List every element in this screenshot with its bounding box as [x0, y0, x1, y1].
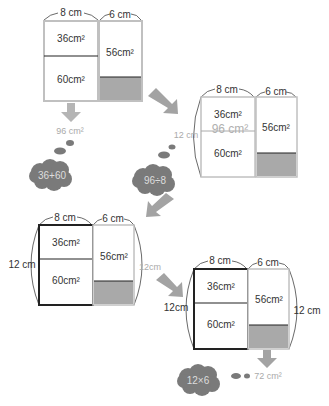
svg-text:12 cm: 12 cm [8, 259, 35, 270]
svg-text:6 cm: 6 cm [102, 213, 124, 224]
diagram-4: 8 cm 6 cm 12cm 12 cm 36cm² 60cm² 56cm² 1… [164, 255, 321, 396]
area-bottom-left: 60cm² [57, 74, 85, 85]
area-top-left: 36cm² [57, 33, 85, 44]
diagram-1: 8 cm 6 cm 36cm² 60cm² 56cm² 96 cm² 36+60 [29, 7, 142, 191]
svg-text:12cm: 12cm [164, 302, 188, 313]
svg-text:56cm²: 56cm² [255, 294, 283, 305]
svg-text:60cm²: 60cm² [52, 275, 80, 286]
svg-text:56cm²: 56cm² [262, 122, 290, 133]
svg-text:36cm²: 36cm² [52, 237, 80, 248]
svg-text:36cm²: 36cm² [207, 281, 235, 292]
width-right-label: 6 cm [109, 9, 131, 20]
svg-text:6 cm: 6 cm [265, 86, 287, 97]
area-reasoning-diagram: 8 cm 6 cm 36cm² 60cm² 56cm² 96 cm² 36+60… [0, 0, 329, 406]
svg-text:6 cm: 6 cm [257, 257, 279, 268]
area-right: 56cm² [106, 47, 134, 58]
svg-text:12 cm: 12 cm [174, 130, 199, 140]
thought-text: 36+60 [38, 170, 67, 181]
svg-text:56cm²: 56cm² [100, 251, 128, 262]
svg-text:8 cm: 8 cm [54, 212, 76, 223]
arrow-right-down-icon [156, 273, 183, 297]
svg-text:8 cm: 8 cm [209, 255, 231, 266]
svg-text:12cm: 12cm [139, 262, 161, 272]
down-arrow-icon [257, 350, 277, 368]
svg-text:8 cm: 8 cm [216, 84, 238, 95]
svg-text:12 cm: 12 cm [293, 305, 320, 316]
width-left-label: 8 cm [60, 7, 82, 18]
unknown-shaded-area [100, 77, 141, 100]
result-label: 72 cm² [254, 371, 282, 381]
brace-8cm [44, 13, 58, 20]
arrow-left-down-icon [146, 193, 174, 217]
svg-text:60cm²: 60cm² [214, 148, 242, 159]
down-arrow-icon [61, 103, 81, 122]
svg-text:36cm²: 36cm² [214, 109, 242, 120]
svg-text:96÷8: 96÷8 [144, 175, 167, 186]
result-label: 96 cm² [56, 126, 84, 136]
arrow-right-down-icon [148, 88, 178, 114]
area-overlay: 96 cm² [212, 122, 249, 136]
diagram-3: 8 cm 6 cm 12 cm 12cm 36cm² 60cm² 56cm² [8, 212, 161, 305]
svg-text:60cm²: 60cm² [207, 319, 235, 330]
svg-text:12×6: 12×6 [187, 375, 210, 386]
